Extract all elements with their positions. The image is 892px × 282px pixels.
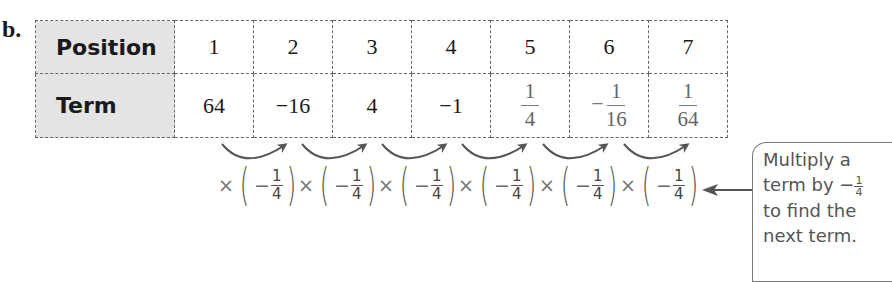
arc-arrow-icon bbox=[543, 144, 606, 158]
arc-arrow-icon bbox=[462, 144, 525, 158]
callout-note: Multiply a term by −14 to find the next … bbox=[752, 142, 892, 282]
arc-arrow-icon bbox=[382, 144, 445, 158]
multiplier-label: ×(−14) bbox=[218, 163, 300, 207]
arc-arrow-icon bbox=[222, 144, 285, 158]
fraction: 14 bbox=[854, 175, 863, 198]
callout-line: to find the bbox=[763, 198, 892, 223]
callout-line: term by −14 bbox=[763, 172, 892, 198]
arc-arrow-icon bbox=[302, 144, 365, 158]
arc-arrow-icon bbox=[624, 144, 687, 158]
multiplier-label: ×(−14) bbox=[298, 163, 380, 207]
callout-line: next term. bbox=[763, 223, 892, 248]
multiplier-label: ×(−14) bbox=[539, 163, 621, 207]
multiplier-label: ×(−14) bbox=[378, 163, 460, 207]
multiplier-label: ×(−14) bbox=[458, 163, 540, 207]
callout-line: Multiply a bbox=[763, 147, 892, 172]
left-arrow-icon bbox=[702, 184, 752, 196]
multiplier-label: ×(−14) bbox=[620, 163, 702, 207]
